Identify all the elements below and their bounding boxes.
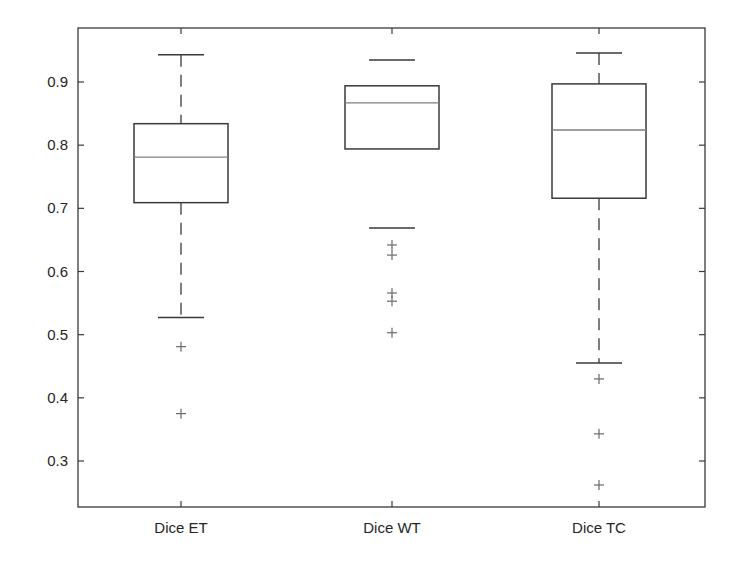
y-tick-label: 0.5 bbox=[47, 326, 68, 343]
y-axis: 0.30.40.50.60.70.80.9 bbox=[47, 73, 705, 469]
box-group-dice-wt bbox=[345, 60, 439, 338]
boxplot-chart: 0.30.40.50.60.70.80.9 Dice ETDice WTDice… bbox=[0, 0, 741, 566]
outlier-marker bbox=[176, 342, 186, 352]
axes-frame bbox=[78, 28, 705, 507]
box-group-dice-et bbox=[134, 55, 228, 419]
y-tick-label: 0.6 bbox=[47, 263, 68, 280]
outlier-marker bbox=[387, 328, 397, 338]
x-axis: Dice ETDice WTDice TC bbox=[154, 28, 626, 536]
x-category-label: Dice ET bbox=[154, 519, 207, 536]
outlier-marker bbox=[387, 250, 397, 260]
outlier-marker bbox=[594, 374, 604, 384]
iqr-box bbox=[134, 124, 228, 203]
outlier-marker bbox=[387, 240, 397, 250]
y-tick-label: 0.8 bbox=[47, 136, 68, 153]
y-tick-label: 0.9 bbox=[47, 73, 68, 90]
outlier-marker bbox=[594, 429, 604, 439]
plot-area bbox=[134, 53, 646, 490]
x-category-label: Dice WT bbox=[363, 519, 421, 536]
y-tick-label: 0.7 bbox=[47, 199, 68, 216]
outlier-marker bbox=[387, 296, 397, 306]
outlier-marker bbox=[176, 409, 186, 419]
box-group-dice-tc bbox=[552, 53, 646, 490]
x-category-label: Dice TC bbox=[572, 519, 626, 536]
iqr-box bbox=[345, 86, 439, 149]
iqr-box bbox=[552, 84, 646, 198]
y-tick-label: 0.3 bbox=[47, 452, 68, 469]
outlier-marker bbox=[594, 480, 604, 490]
y-tick-label: 0.4 bbox=[47, 389, 68, 406]
